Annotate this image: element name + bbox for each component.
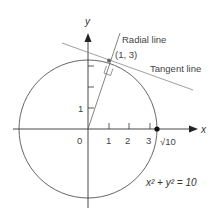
x-tick-label-3: 3 bbox=[146, 135, 151, 146]
circle-tangent-diagram: y x 0 1 2 3 1 √10 (1, 3) Radial line Tan… bbox=[0, 0, 222, 218]
x-tick-label-1: 1 bbox=[106, 135, 111, 146]
tangent-line-label: Tangent line bbox=[150, 63, 201, 74]
radial-line-label: Radial line bbox=[122, 34, 166, 45]
x-tick-label-0: 0 bbox=[77, 135, 82, 146]
point-label: (1, 3) bbox=[115, 49, 137, 60]
point-sqrt10 bbox=[154, 126, 159, 131]
sqrt10-label: √10 bbox=[160, 136, 176, 147]
radial-line bbox=[88, 33, 120, 129]
equation-label: x² + y² = 10 bbox=[145, 177, 197, 188]
y-axis-arrow-icon bbox=[85, 33, 92, 42]
y-tick-label-1: 1 bbox=[78, 103, 83, 114]
point-1-3 bbox=[107, 59, 111, 63]
x-tick-label-2: 2 bbox=[125, 135, 130, 146]
y-axis-label: y bbox=[84, 16, 91, 27]
x-axis-label: x bbox=[200, 124, 207, 135]
x-axis-arrow-icon bbox=[189, 126, 198, 133]
